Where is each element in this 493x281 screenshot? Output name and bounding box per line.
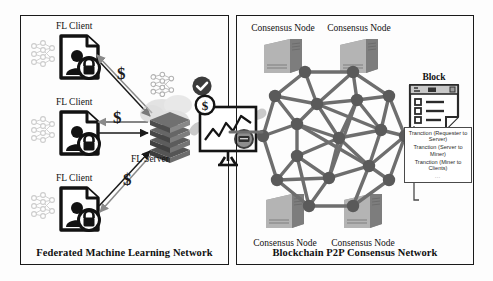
svg-text:$: $ <box>202 98 209 113</box>
neural-network-icon <box>30 115 57 145</box>
blockchain-caption: Blockchain P2P Consensus Network <box>237 247 473 258</box>
fl-server-label: FL Server <box>131 154 169 164</box>
neural-network-icon <box>30 39 57 69</box>
neural-network-icon <box>151 72 174 96</box>
transaction-ellipsis: … <box>406 173 470 179</box>
money-marker-1: $ <box>117 64 126 84</box>
block-title: Block <box>398 72 470 82</box>
check-badge-icon <box>192 76 211 95</box>
transaction-item: Tranction (Server to Miner) <box>406 144 470 157</box>
fl-client-2: FL Client <box>30 98 116 158</box>
fl-client-3-label: FL Client <box>56 173 92 183</box>
money-marker-2: $ <box>113 108 122 128</box>
diagram-canvas: Federated Machine Learning Network FL Cl… <box>0 0 493 281</box>
consensus-node-top-right-label: Consensus Node <box>326 23 392 33</box>
dollar-badge-icon: $ <box>196 96 215 115</box>
transaction-item: Tranction (Requester to Server) <box>406 130 470 143</box>
secure-user-document-icon <box>56 33 104 81</box>
federated-learning-caption: Federated Machine Learning Network <box>21 247 228 258</box>
consensus-node-bottom-right-label: Consensus Node <box>330 238 396 248</box>
transaction-item: Tranction (Miner to Clients) <box>406 159 470 172</box>
block-group: Block Tranction (Requester to Server) Tr <box>398 72 470 202</box>
fl-client-3: FL Client <box>30 174 116 234</box>
p2p-mesh-network-icon <box>257 60 417 220</box>
fl-client-1: FL Client <box>30 22 116 82</box>
fl-client-1-label: FL Client <box>56 21 92 31</box>
secure-user-document-icon <box>56 109 104 157</box>
neural-network-icon <box>30 191 57 221</box>
fl-client-2-label: FL Client <box>56 97 92 107</box>
consensus-node-bottom-left-label: Consensus Node <box>252 238 318 248</box>
transaction-list: Tranction (Requester to Server) Tranctio… <box>404 127 472 183</box>
money-marker-3: $ <box>123 170 132 190</box>
consensus-node-top-left-label: Consensus Node <box>250 23 316 33</box>
secure-user-document-icon <box>56 185 104 233</box>
bridge-connector <box>228 120 264 144</box>
